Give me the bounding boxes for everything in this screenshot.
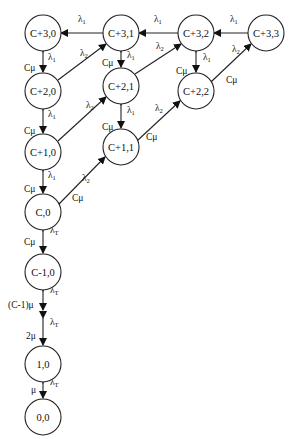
cmu-label: Cμ — [24, 237, 35, 247]
state-node-c3-1: C+3,1 — [103, 15, 139, 51]
edge-31-to-30: λ1 — [61, 14, 104, 33]
cmu-label: Cμ — [102, 122, 113, 132]
svg-text:C+3,2: C+3,2 — [183, 28, 209, 39]
lambdaT-label: λT — [50, 317, 59, 328]
state-node-c3-2: C+3,2 — [178, 15, 214, 51]
edge-11-22-cmu: Cμ — [146, 132, 157, 142]
edge-33-to-32: λ1 — [214, 14, 249, 33]
cm1mu-label: (C-1)μ — [8, 300, 34, 311]
edge-cm1-dots: λT (C-1)μ — [8, 285, 59, 311]
state-node-c-0: C,0 — [25, 194, 61, 230]
state-node-c2-0: C+2,0 — [25, 73, 61, 109]
state-node-cm1-0: C-1,0 — [25, 254, 61, 290]
edge-21-32: λ2 — [135, 41, 181, 74]
cmu-label: Cμ — [226, 75, 237, 85]
edge-22-33: λ2 Cμ — [212, 44, 251, 85]
cmu-label: Cμ — [146, 132, 157, 142]
svg-text:C+1,1: C+1,1 — [108, 142, 134, 153]
lambda1-label: λ1 — [127, 105, 135, 116]
state-node-0-0: 0,0 — [25, 399, 61, 435]
lambda2-label: λ2 — [80, 48, 88, 59]
state-node-1-0: 1,0 — [25, 346, 61, 382]
lambda1-label: λ1 — [78, 14, 86, 25]
lambda1-label: λ1 — [230, 14, 238, 25]
lambda1-label: λ1 — [48, 52, 56, 63]
svg-text:C+3,1: C+3,1 — [108, 28, 134, 39]
edge-c0-11: λ2 Cμ — [60, 157, 105, 203]
svg-text:C+2,2: C+2,2 — [183, 86, 209, 97]
svg-text:C+2,0: C+2,0 — [30, 86, 56, 97]
svg-text:C+3,0: C+3,0 — [30, 28, 56, 39]
lambda2-label: λ2 — [232, 44, 240, 55]
lambda1-label: λ1 — [203, 52, 211, 63]
edge-10-c0: λ1 Cμ — [24, 170, 56, 194]
edge-dots-one: λT 2μ — [26, 317, 59, 345]
cmu-label: Cμ — [72, 193, 83, 203]
state-node-c1-1: C+1,1 — [103, 129, 139, 165]
svg-text:C+2,1: C+2,1 — [108, 81, 134, 92]
state-node-c2-1: C+2,1 — [103, 68, 139, 104]
edge-20-31: λ2 — [58, 44, 106, 80]
edge-10-21: λ2 — [58, 97, 106, 141]
edge-30-20: λ1 Cμ — [24, 52, 56, 73]
state-node-c3-0: C+3,0 — [25, 15, 61, 51]
state-node-c1-0: C+1,0 — [25, 134, 61, 170]
state-transition-diagram: λ1 λ1 λ1 λ1 Cμ λ1 Cμ λ1 Cμ λT Cμ λT (C-1… — [0, 0, 303, 439]
mu-label: μ — [31, 385, 36, 395]
edge-32-to-31: λ1 — [139, 14, 179, 33]
cmu-label: Cμ — [176, 66, 187, 76]
lambda2-label: λ2 — [86, 100, 94, 111]
lambda1-label: λ1 — [127, 50, 135, 61]
edge-20-10: λ1 Cμ — [24, 109, 56, 136]
state-node-c2-2: C+2,2 — [178, 73, 214, 109]
svg-text:C,0: C,0 — [36, 207, 51, 218]
svg-text:C+1,0: C+1,0 — [30, 147, 56, 158]
lambda1-label: λ1 — [154, 14, 162, 25]
svg-text:C+3,3: C+3,3 — [253, 28, 279, 39]
lambda2-label: λ2 — [155, 103, 163, 114]
svg-text:1,0: 1,0 — [36, 359, 49, 370]
cmu-label: Cμ — [24, 184, 35, 194]
cmu-label: Cμ — [24, 63, 35, 73]
lambda1-label: λ1 — [48, 170, 56, 181]
edge-21-11: λ1 Cμ — [102, 105, 135, 132]
svg-text:0,0: 0,0 — [36, 412, 49, 423]
lambda2-label: λ2 — [82, 173, 90, 184]
state-node-c3-3: C+3,3 — [248, 15, 284, 51]
edge-11-22: λ2 — [136, 101, 180, 142]
cmu-label: Cμ — [102, 58, 113, 68]
twomu-label: 2μ — [26, 331, 36, 341]
svg-text:C-1,0: C-1,0 — [31, 267, 55, 278]
edge-32-22: λ1 Cμ — [176, 52, 211, 76]
edge-31-21: λ1 Cμ — [102, 50, 135, 68]
lambda2-label: λ2 — [156, 41, 164, 52]
cmu-label: Cμ — [24, 126, 35, 136]
lambda1-label: λ1 — [48, 109, 56, 120]
